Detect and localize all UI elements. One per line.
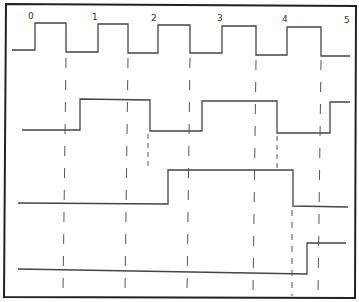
clock-label-4: 4 [282,14,288,24]
clock-label-2: 2 [151,13,157,23]
divide-by-8-waveform [18,243,346,274]
divide-by-2-waveform [22,99,350,133]
timing-diagram: 0 1 2 3 4 5 [0,0,359,302]
guide-line-3 [187,58,190,294]
guide-line-2 [125,58,128,292]
guide-line-4 [253,60,256,294]
divide-by-4-waveform [18,170,348,207]
guide-line-1 [63,58,66,292]
clock-label-5: 5 [344,15,350,25]
clock-label-3: 3 [217,13,223,23]
clock-label-1: 1 [92,12,98,22]
guide-line-5 [318,60,321,296]
clock-waveform [12,23,350,56]
clock-label-0: 0 [28,11,34,21]
diagram-frame [4,4,356,298]
